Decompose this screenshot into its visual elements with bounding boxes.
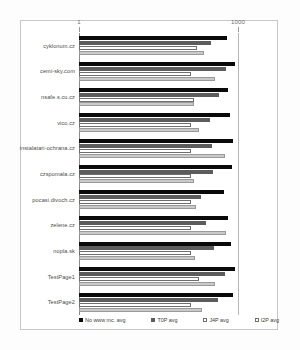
bar-group: cyklonum.cz [79, 33, 239, 59]
bar [79, 246, 214, 250]
bar [79, 118, 210, 122]
bar [79, 195, 201, 199]
category-label: cyklonum.cz [43, 43, 75, 49]
bar [79, 293, 233, 297]
bar-group: czspomala.cz [79, 161, 239, 187]
legend-label: J4P avg [209, 317, 228, 323]
legend-label: No www mc. avg [85, 317, 125, 323]
bar [79, 77, 215, 81]
bar [79, 231, 226, 235]
bar [79, 46, 197, 50]
bar [79, 88, 228, 92]
bar [79, 277, 199, 281]
bar [79, 139, 233, 143]
legend-label: I2P avg [261, 317, 279, 323]
category-label: zelene.cz [50, 222, 75, 228]
category-label: czspomala.cz [40, 171, 75, 177]
bar [79, 144, 212, 148]
bar [79, 256, 195, 260]
category-label: pocasi.divoch.cz [32, 197, 75, 203]
category-label: instalatari-ochrana.cz [20, 145, 75, 151]
bar [79, 205, 196, 209]
category-label: cemi-sky.com [40, 68, 75, 74]
bar [79, 267, 235, 271]
bar [79, 179, 194, 183]
chart-frame: 1 1000 cyklonum.czcemi-sky.comnsafe.s.cu… [20, 20, 278, 330]
bar-group: instalatari-ochrana.cz [79, 136, 239, 162]
category-label: TestPage2 [48, 299, 75, 305]
legend-item[interactable]: I2P avg [255, 317, 279, 323]
category-label: vico.cz [57, 120, 75, 126]
legend-swatch [255, 318, 259, 322]
bar [79, 93, 219, 97]
chart-container: 1 1000 cyklonum.czcemi-sky.comnsafe.s.cu… [0, 0, 300, 350]
bar [79, 200, 191, 204]
bar [79, 51, 204, 55]
legend-swatch [151, 318, 155, 322]
bar [79, 298, 218, 302]
bar [79, 174, 191, 178]
legend-label: T0P avg [157, 317, 177, 323]
bar [79, 251, 191, 255]
bar [79, 123, 191, 127]
legend-swatch [79, 318, 83, 322]
bar-group: TestPage1 [79, 264, 239, 290]
bar-group: nopla.sk [79, 238, 239, 264]
bar [79, 113, 230, 117]
bar [79, 41, 211, 45]
bar-group: pocasi.divoch.cz [79, 187, 239, 213]
x-tick-label-high: 1000 [231, 19, 245, 25]
category-label: nsafe.s.cu.cz [41, 94, 75, 100]
bar [79, 221, 206, 225]
bar [79, 165, 232, 169]
bar [79, 98, 194, 102]
bar [79, 36, 227, 40]
bar [79, 308, 202, 312]
category-label: TestPage1 [48, 274, 75, 280]
bar [79, 149, 191, 153]
bar [79, 170, 213, 174]
x-tick-label-low: 1 [77, 19, 81, 25]
bar [79, 128, 199, 132]
plot-area: 1 1000 cyklonum.czcemi-sky.comnsafe.s.cu… [79, 33, 239, 315]
bar [79, 216, 228, 220]
bar [79, 67, 226, 71]
tick-mark-1000 [238, 27, 239, 32]
tick-mark-1 [79, 27, 80, 32]
bar-group: vico.cz [79, 110, 239, 136]
bar [79, 282, 215, 286]
bar [79, 154, 225, 158]
category-label: nopla.sk [53, 248, 75, 254]
bar [79, 242, 231, 246]
bar-group: nsafe.s.cu.cz [79, 84, 239, 110]
legend-item[interactable]: J4P avg [203, 317, 228, 323]
legend-swatch [203, 318, 207, 322]
legend-item[interactable]: No www mc. avg [79, 317, 125, 323]
bar [79, 303, 191, 307]
bar-group: cemi-sky.com [79, 59, 239, 85]
bar [79, 190, 224, 194]
chart-legend: No www mc. avgT0P avgJ4P avgI2P avg [79, 317, 279, 323]
bar [79, 72, 191, 76]
legend-item[interactable]: T0P avg [151, 317, 177, 323]
bar-group: TestPage2 [79, 289, 239, 315]
bar [79, 272, 225, 276]
bar [79, 102, 194, 106]
bar [79, 226, 191, 230]
bar-group: zelene.cz [79, 212, 239, 238]
bar [79, 62, 235, 66]
